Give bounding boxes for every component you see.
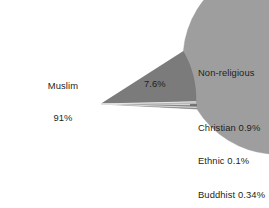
slice-label-ethnic: Ethnic 0.1% <box>198 155 265 167</box>
pie-chart-figure: Muslim 91% 7.6% Non-religious Christian … <box>0 0 269 208</box>
slice-label-muslim-name: Muslim <box>34 81 92 92</box>
slice-value-nonreligious: 7.6% <box>144 79 166 90</box>
slice-label-christian: Christian 0.9% <box>198 122 265 134</box>
slice-label-muslim: Muslim 91% <box>34 60 92 144</box>
slice-label-small-group: Christian 0.9% Ethnic 0.1% Buddhist 0.34… <box>198 101 265 208</box>
slice-label-muslim-value: 91% <box>34 113 92 124</box>
slice-label-buddhist: Buddhist 0.34% <box>198 189 265 201</box>
slice-label-nonreligious: Non-religious <box>198 68 255 79</box>
